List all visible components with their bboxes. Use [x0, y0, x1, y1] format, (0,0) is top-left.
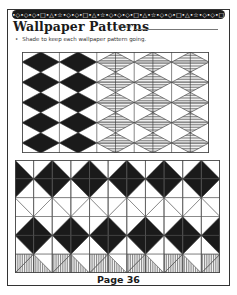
shaded-diamond[interactable] — [22, 52, 59, 72]
decorative-banner: •◇•◇•◇•□•△•☆•◇•◇•□•△•☆•◇•◇•◇•□•△•☆•◇•◇•□… — [12, 10, 225, 19]
shaded-diamond[interactable] — [22, 133, 59, 153]
shaded-diamond[interactable] — [59, 72, 96, 92]
diamond-wallpaper-pattern[interactable] — [22, 52, 209, 153]
page-number: Page 36 — [0, 274, 237, 285]
shaded-diamond[interactable] — [59, 92, 96, 112]
shaded-diamond[interactable] — [22, 72, 59, 92]
shaded-diamond[interactable] — [59, 133, 96, 153]
instruction: •Shade to keep each wallpaper pattern go… — [15, 36, 146, 42]
name-label: Name — [118, 24, 131, 29]
name-field[interactable] — [135, 29, 218, 30]
shaded-diamond[interactable] — [59, 113, 96, 133]
shaded-diamond[interactable] — [22, 113, 59, 133]
shaded-diamond[interactable] — [59, 52, 96, 72]
bullet-icon: • — [15, 36, 18, 42]
instruction-text: Shade to keep each wallpaper pattern goi… — [22, 36, 146, 42]
zigzag-wallpaper-pattern[interactable] — [15, 160, 220, 273]
shaded-diamond[interactable] — [22, 92, 59, 112]
